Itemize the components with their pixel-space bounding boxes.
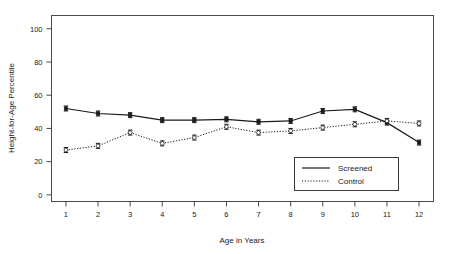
data-point-marker [64, 107, 67, 110]
x-tick-label: 1 [64, 210, 68, 219]
data-point-marker [385, 119, 389, 123]
data-point-marker [257, 131, 261, 135]
data-point-marker [160, 141, 164, 145]
y-tick-label: 0 [38, 191, 42, 200]
y-tick-label: 60 [34, 91, 42, 100]
data-point-marker [353, 122, 357, 126]
x-tick-label: 2 [96, 210, 100, 219]
height-for-age-percentile-line-chart: 020406080100 123456789101112 Age in Year… [0, 0, 451, 254]
legend-label-control: Control [338, 177, 364, 186]
x-tick-label: 6 [224, 210, 228, 219]
legend: Screened Control [295, 158, 399, 191]
data-point-marker [128, 131, 132, 135]
x-tick-label: 8 [289, 210, 293, 219]
data-point-marker [225, 125, 229, 129]
x-tick-label: 5 [192, 210, 196, 219]
x-tick-label: 10 [351, 210, 359, 219]
data-point-marker [161, 118, 164, 121]
data-point-marker [192, 136, 196, 140]
data-point-marker [193, 118, 196, 121]
data-point-marker [289, 129, 293, 133]
data-point-marker [96, 144, 100, 148]
x-tick-label: 12 [415, 210, 423, 219]
x-tick-label: 4 [160, 210, 164, 219]
y-tick-label: 80 [34, 58, 42, 67]
x-tick-label: 7 [256, 210, 260, 219]
chart-figure: 020406080100 123456789101112 Age in Year… [0, 0, 451, 254]
x-tick-label: 3 [128, 210, 132, 219]
data-point-marker [289, 119, 292, 122]
data-point-marker [257, 120, 260, 123]
data-point-marker [64, 148, 68, 152]
data-point-marker [96, 112, 99, 115]
y-tick-label: 40 [34, 124, 42, 133]
data-point-marker [321, 126, 325, 130]
data-point-marker [417, 141, 420, 144]
legend-label-screened: Screened [338, 164, 372, 173]
y-axis-title: Height-for-Age Percentile [7, 63, 16, 153]
y-tick-label: 20 [34, 157, 42, 166]
data-point-marker [417, 122, 421, 126]
x-axis-title: Age in Years [220, 236, 265, 245]
x-tick-label: 9 [321, 210, 325, 219]
data-point-marker [353, 108, 356, 111]
data-point-marker [128, 113, 131, 116]
x-tick-label: 11 [383, 210, 391, 219]
y-tick-label: 100 [30, 25, 43, 34]
data-point-marker [225, 118, 228, 121]
data-point-marker [321, 109, 324, 112]
